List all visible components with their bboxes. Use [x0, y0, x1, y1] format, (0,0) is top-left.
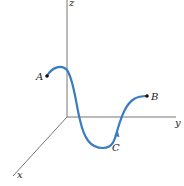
point-b-label: B	[150, 91, 158, 102]
y-axis-label: y	[174, 117, 181, 128]
x-axis	[13, 117, 67, 176]
point-c-label: C	[112, 142, 120, 153]
direction-arrow-icon	[115, 130, 120, 137]
space-curve	[47, 67, 147, 148]
point-a-label: A	[35, 71, 43, 82]
x-axis-label: x	[17, 169, 23, 180]
point-a	[45, 74, 49, 78]
z-axis-label: z	[68, 0, 75, 8]
point-b	[145, 94, 149, 98]
space-curve-diagram: z y x A B C	[0, 0, 184, 186]
